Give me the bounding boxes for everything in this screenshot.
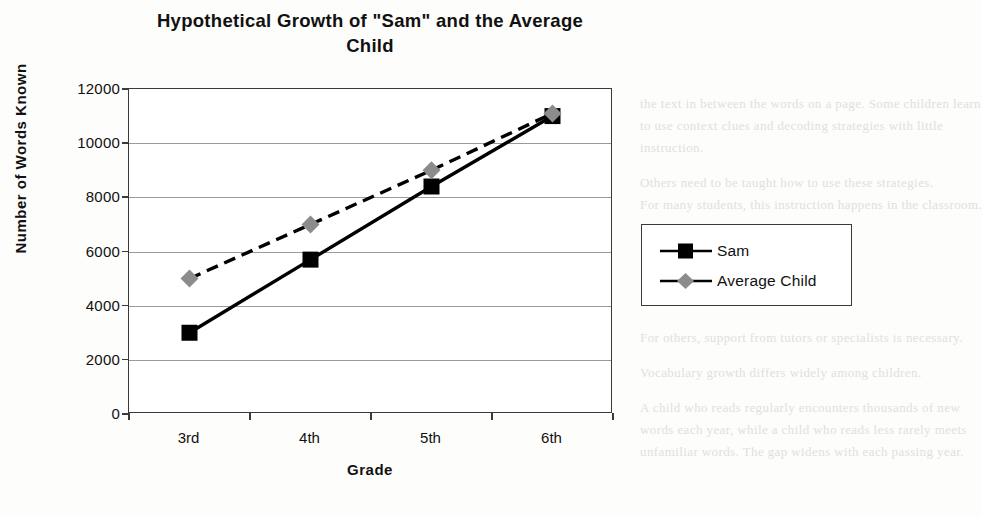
background-text-line: Others need to be taught how to use thes…	[640, 175, 933, 191]
x-tick-label: 3rd	[134, 429, 244, 446]
legend-item-sam[interactable]: Sam	[642, 236, 851, 266]
chart-title-line-2: Child	[110, 33, 630, 58]
data-point-marker[interactable]	[424, 179, 440, 195]
x-axis-title: Grade	[128, 461, 612, 478]
x-tick-mark	[249, 413, 251, 420]
x-tick-label: 6th	[497, 429, 607, 446]
y-tick-label: 12000	[20, 80, 120, 97]
x-tick-mark	[491, 413, 493, 420]
background-text-line: to use context clues and decoding strate…	[640, 118, 943, 134]
legend-item-average-child[interactable]: Average Child	[642, 266, 851, 296]
series-layer	[129, 89, 613, 414]
series-line-sam	[190, 116, 553, 333]
plot-area	[128, 88, 612, 413]
y-tick-label: 0	[20, 405, 120, 422]
data-point-marker[interactable]	[303, 252, 319, 268]
y-tick-label: 4000	[20, 296, 120, 313]
x-tick-mark	[370, 413, 372, 420]
x-tick-label: 5th	[376, 429, 486, 446]
data-point-marker[interactable]	[181, 270, 199, 288]
data-point-marker[interactable]	[302, 215, 320, 233]
chart-legend: Sam Average Child	[641, 224, 852, 306]
background-text-line: unfamiliar words. The gap widens with ea…	[640, 444, 964, 460]
data-point-marker[interactable]	[423, 161, 441, 179]
x-tick-mark	[612, 413, 614, 420]
background-text-line: instruction.	[640, 140, 704, 156]
legend-swatch-diamond-icon	[658, 272, 714, 290]
y-tick-label: 2000	[20, 350, 120, 367]
y-tick-label: 6000	[20, 242, 120, 259]
legend-label-sam: Sam	[717, 242, 749, 260]
y-tick-label: 8000	[20, 188, 120, 205]
background-text-line: For many students, this instruction happ…	[640, 197, 982, 213]
x-tick-mark	[128, 413, 130, 420]
x-tick-label: 4th	[255, 429, 365, 446]
background-text-line: A child who reads regularly encounters t…	[640, 400, 960, 416]
data-point-marker[interactable]	[182, 325, 198, 341]
background-text-line: words each year, while a child who reads…	[640, 422, 967, 438]
series-line-average-child	[190, 113, 553, 278]
legend-label-average-child: Average Child	[717, 272, 817, 290]
background-text-line: the text in between the words on a page.…	[640, 96, 981, 112]
chart-title: Hypothetical Growth of "Sam" and the Ave…	[110, 8, 630, 58]
background-text-line: For others, support from tutors or speci…	[640, 330, 963, 346]
background-text-line: Vocabulary growth differs widely among c…	[640, 365, 922, 381]
chart-title-line-1: Hypothetical Growth of "Sam" and the Ave…	[110, 8, 630, 33]
y-tick-label: 10000	[20, 134, 120, 151]
legend-swatch-square-icon	[658, 242, 714, 260]
